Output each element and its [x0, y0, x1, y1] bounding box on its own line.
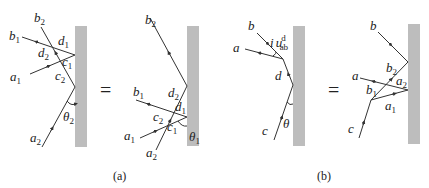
label-theta2: θ2: [63, 109, 74, 126]
angle-arc-u: [273, 52, 276, 56]
panel-a-left: b2 b1 d1 d2 c1 a1 c2 θ2 a2: [9, 10, 87, 147]
boundary-wall: [408, 24, 420, 144]
label-a1: a1: [385, 98, 396, 115]
label-u-ab-d: iudab: [270, 33, 289, 52]
label-a2: a2: [30, 130, 41, 147]
label-d1: d1: [58, 33, 69, 50]
label-a: a: [352, 68, 359, 83]
label-c2: c2: [55, 68, 65, 85]
ray-c: [359, 100, 371, 138]
label-b: b: [370, 18, 377, 33]
label-a: a: [233, 40, 240, 55]
caption-a: (a): [113, 169, 126, 183]
label-b2: b2: [34, 10, 45, 27]
label-c: c: [348, 121, 354, 136]
label-a1: a1: [124, 128, 135, 145]
label-a2: a2: [396, 73, 407, 90]
ray-b: [378, 32, 408, 62]
diagram-canvas: b2 b1 d1 d2 c1 a1 c2 θ2 a2 = b2 b1 d2 d1…: [0, 0, 429, 188]
equals-sign-b: =: [328, 79, 339, 101]
label-b1: b1: [366, 82, 377, 99]
panel-b-left: b a iudab d c θ: [233, 18, 305, 146]
label-a1: a1: [10, 69, 21, 86]
label-d: d: [275, 68, 282, 83]
label-theta: θ: [283, 116, 290, 131]
label-d1: d1: [175, 99, 186, 116]
panel-b-right: b a b2 a2 b1 a1 c: [348, 18, 420, 144]
angle-arc-theta2: [67, 101, 75, 105]
angle-arc-theta1: [178, 121, 187, 126]
label-b1: b1: [9, 28, 20, 45]
panel-a-right: b2 b1 d2 d1 c2 c1 a1 a2 θ1: [124, 12, 200, 162]
boundary-wall: [187, 26, 199, 146]
angle-arc-theta: [287, 102, 293, 105]
caption-b: (b): [317, 169, 331, 183]
ray-d: [283, 59, 293, 85]
label-c: c: [262, 123, 268, 138]
boundary-wall: [75, 26, 87, 147]
label-d2: d2: [38, 45, 49, 62]
label-b: b: [248, 18, 255, 33]
label-a2: a2: [146, 145, 157, 162]
boundary-wall: [293, 26, 305, 146]
equals-sign-a: =: [100, 79, 111, 101]
ray-c: [274, 85, 293, 140]
label-c2: c2: [153, 109, 163, 126]
label-b2: b2: [145, 12, 156, 29]
label-b1: b1: [133, 84, 144, 101]
